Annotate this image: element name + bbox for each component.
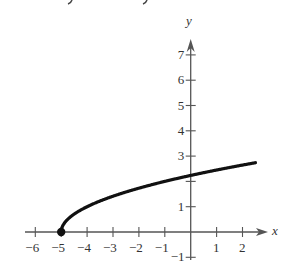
x-tick-label: −5: [51, 241, 65, 254]
function-curve: [61, 163, 255, 232]
x-tick-label: −1: [155, 241, 169, 254]
x-axis-label: x: [272, 224, 278, 237]
tick-marks: [35, 55, 242, 257]
y-tick-label: 7: [178, 48, 185, 61]
y-tick-label: 5: [178, 99, 185, 112]
y-tick-label: −1: [171, 250, 185, 263]
x-tick-label: −3: [103, 241, 117, 254]
graph-plot: [0, 0, 297, 272]
x-tick-label: 2: [239, 241, 246, 254]
endpoint-dot: [57, 228, 65, 236]
y-tick-label: 6: [178, 73, 185, 86]
y-tick-label: 1: [178, 200, 185, 213]
x-tick-label: −4: [77, 241, 91, 254]
y-tick-label: 3: [178, 149, 185, 162]
x-tick-label: −6: [25, 241, 39, 254]
cropped-heading-fragment: [68, 0, 147, 4]
y-tick-label: 4: [178, 124, 185, 137]
x-tick-label: −2: [129, 241, 143, 254]
y-axis-label: y: [186, 14, 192, 27]
x-tick-label: 1: [213, 241, 220, 254]
